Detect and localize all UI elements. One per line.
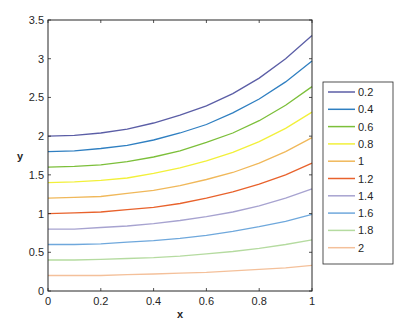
y-tick-label: 0.5	[29, 246, 44, 258]
legend-label: 0.8	[358, 138, 373, 150]
legend-label: 1.6	[358, 207, 373, 219]
series-line-0.4	[48, 61, 312, 152]
legend-label: 1.4	[358, 190, 373, 202]
y-tick-label: 3	[38, 53, 44, 65]
legend-label: 1.8	[358, 224, 373, 236]
series-line-2	[48, 265, 312, 275]
line-chart: 00.20.40.60.81 00.511.522.533.5 x y 0.20…	[0, 0, 395, 331]
plot-lines	[48, 36, 312, 276]
series-line-0.6	[48, 87, 312, 168]
legend-label: 1	[358, 155, 364, 167]
y-axis-ticks: 00.511.522.533.5	[29, 14, 312, 297]
series-line-1.8	[48, 240, 312, 260]
series-line-1.4	[48, 189, 312, 229]
legend-label: 0.4	[358, 103, 373, 115]
series-line-0.8	[48, 112, 312, 183]
y-axis-label: y	[17, 150, 24, 162]
legend-label: 2	[358, 242, 364, 254]
x-axis-ticks: 00.20.40.60.81	[45, 20, 315, 307]
legend-label: 0.6	[358, 121, 373, 133]
series-line-1.2	[48, 163, 312, 213]
x-axis-label: x	[177, 308, 184, 320]
y-tick-label: 0	[38, 285, 44, 297]
y-tick-label: 1	[38, 208, 44, 220]
plot-area-frame	[48, 20, 312, 291]
y-tick-label: 1.5	[29, 169, 44, 181]
series-line-0.2	[48, 36, 312, 137]
x-tick-label: 0	[45, 295, 51, 307]
x-tick-label: 0.4	[146, 295, 161, 307]
x-tick-label: 0.8	[252, 295, 267, 307]
y-tick-label: 2.5	[29, 91, 44, 103]
x-tick-label: 1	[309, 295, 315, 307]
x-tick-label: 0.6	[199, 295, 214, 307]
series-line-1.6	[48, 214, 312, 244]
y-tick-label: 2	[38, 130, 44, 142]
legend-label: 1.2	[358, 173, 373, 185]
legend-label: 0.2	[358, 86, 373, 98]
x-tick-label: 0.2	[93, 295, 108, 307]
y-tick-label: 3.5	[29, 14, 44, 26]
legend: 0.20.40.60.811.21.41.61.82	[323, 82, 393, 264]
